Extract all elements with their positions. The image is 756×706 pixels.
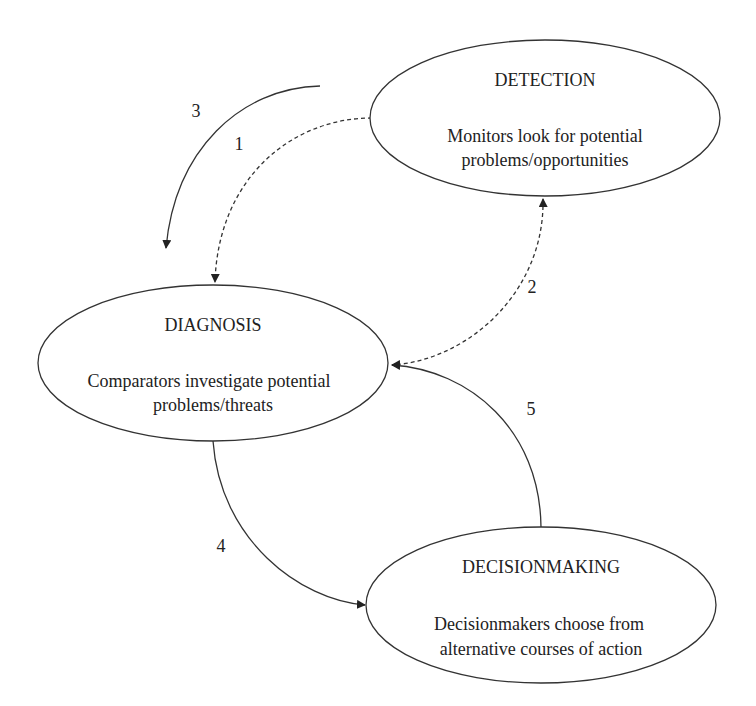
decisionmaking-description-line-1: Decisionmakers choose from (434, 614, 644, 634)
edge-5-arrow-icon (392, 365, 541, 527)
edge-2: 2 (392, 199, 543, 365)
diagnosis-description-line-1: Comparators investigate potential (88, 371, 331, 391)
decision-cycle-diagram: 3 1 2 5 4 DETECTION Monitors look for po… (0, 0, 756, 706)
edge-3-label: 3 (192, 101, 201, 121)
diagnosis-ellipse (38, 285, 388, 441)
detection-description-line-1: Monitors look for potential (447, 126, 642, 146)
edge-1-label: 1 (235, 134, 244, 154)
decisionmaking-title: DECISIONMAKING (462, 557, 620, 577)
edge-4: 4 (213, 441, 365, 605)
decisionmaking-ellipse (366, 527, 716, 683)
edge-5: 5 (392, 365, 541, 527)
edge-4-label: 4 (217, 536, 226, 556)
decisionmaking-description-line-2: alternative courses of action (440, 639, 642, 659)
diagnosis-description-line-2: problems/threats (153, 395, 273, 415)
edge-4-arrow-icon (213, 441, 365, 605)
node-decisionmaking: DECISIONMAKING Decisionmakers choose fro… (366, 527, 716, 683)
diagnosis-title: DIAGNOSIS (164, 315, 261, 335)
edge-2-label: 2 (528, 277, 537, 297)
edge-2-arrow-icon (392, 199, 543, 365)
node-diagnosis: DIAGNOSIS Comparators investigate potent… (38, 285, 388, 441)
detection-title: DETECTION (495, 70, 596, 90)
node-detection: DETECTION Monitors look for potential pr… (370, 40, 720, 196)
detection-ellipse (370, 40, 720, 196)
edge-3-arrow-icon (166, 86, 320, 248)
detection-description-line-2: problems/opportunities (462, 150, 629, 170)
edge-1: 1 (215, 118, 372, 282)
edge-3: 3 (166, 86, 320, 248)
edge-5-label: 5 (527, 399, 536, 419)
